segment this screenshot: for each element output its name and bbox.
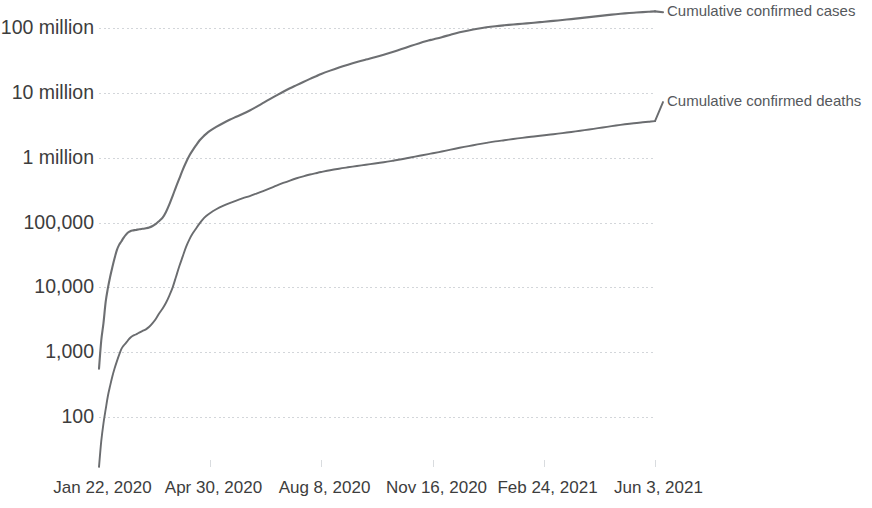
- y-axis-tick-label: 1 million: [22, 146, 94, 168]
- y-axis-tick-label: 100,000: [24, 211, 95, 233]
- x-axis-tick-label: Jun 3, 2021: [614, 478, 703, 497]
- x-axis-tick-label: Feb 24, 2021: [497, 478, 597, 497]
- y-axis-tick-label: 100: [61, 405, 94, 427]
- covid-cumulative-log-chart: 100 million10 million1 million100,00010,…: [0, 0, 872, 508]
- y-axis-tick-label: 100 million: [1, 16, 94, 38]
- chart-canvas: 100 million10 million1 million100,00010,…: [0, 0, 872, 508]
- x-axis-tick-label: Aug 8, 2020: [279, 478, 371, 497]
- x-axis-tick-label: Apr 30, 2020: [165, 478, 262, 497]
- x-axis-tick-label: Nov 16, 2020: [386, 478, 487, 497]
- series-label-cases: Cumulative confirmed cases: [667, 2, 855, 19]
- series-label-connector-cases: [655, 11, 663, 12]
- x-axis-tick-label: Jan 22, 2020: [53, 478, 151, 497]
- chart-background: [0, 0, 872, 508]
- y-axis-tick-label: 10 million: [12, 81, 94, 103]
- y-axis-tick-label: 1,000: [45, 340, 94, 362]
- y-axis-tick-label: 10,000: [34, 275, 94, 297]
- series-label-deaths: Cumulative confirmed deaths: [667, 92, 861, 109]
